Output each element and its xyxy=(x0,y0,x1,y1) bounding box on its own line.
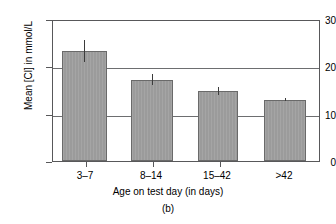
x-tick-label-8-14: 8–14 xyxy=(140,170,162,181)
plot-area xyxy=(52,20,320,162)
bar-15-42 xyxy=(198,91,238,161)
bar-3-7 xyxy=(62,51,107,161)
x-tick-label-gt-42: >42 xyxy=(276,170,293,181)
x-tick-mark-3 xyxy=(220,162,221,167)
bar-8-14 xyxy=(131,80,173,161)
error-bar-15-42 xyxy=(218,87,219,95)
chart-figure: Mean [Cl] in mmol/L 30 20 10 0 3–7 8–14 … xyxy=(0,0,336,224)
error-bar-gt-42 xyxy=(285,98,286,101)
x-tick-label-3-7: 3–7 xyxy=(77,170,94,181)
bar-gt-42 xyxy=(264,100,306,161)
error-bar-3-7 xyxy=(84,40,85,62)
x-tick-mark-1 xyxy=(86,162,87,167)
y-axis-label: Mean [Cl] in mmol/L xyxy=(23,0,34,146)
error-bar-8-14 xyxy=(152,74,153,85)
x-tick-label-15-42: 15–42 xyxy=(203,170,231,181)
figure-caption: (b) xyxy=(0,203,336,214)
y-tick-mark-0 xyxy=(46,162,52,163)
x-axis-label: Age on test day (in days) xyxy=(0,186,336,197)
x-tick-mark-2 xyxy=(153,162,154,167)
